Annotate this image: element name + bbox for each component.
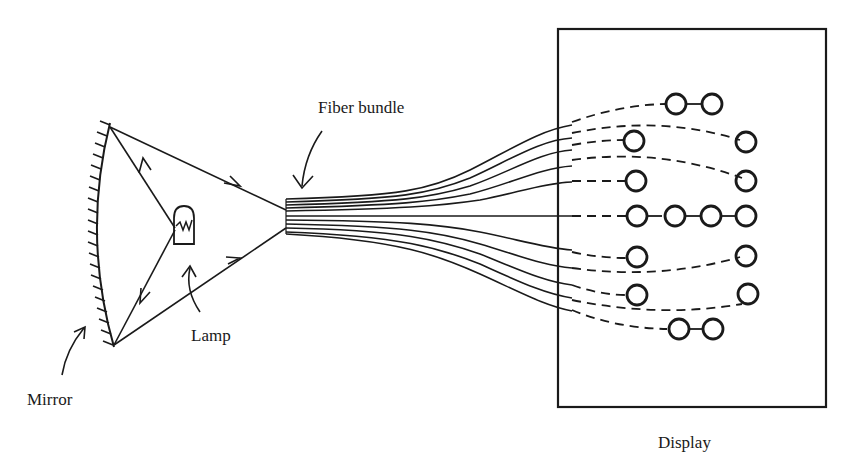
fibers (286, 125, 572, 311)
lamp-filament (176, 220, 192, 230)
mirror-label: Mirror (27, 390, 72, 410)
display-frame (558, 29, 826, 407)
light-rays (110, 127, 286, 345)
display-label: Display (658, 433, 711, 453)
fiber-optic-display-diagram (0, 0, 845, 476)
lamp-label: Lamp (191, 326, 231, 346)
fiber-bundle-label: Fiber bundle (318, 98, 404, 118)
mirror-pointer-arrow (62, 328, 84, 375)
mirror-hatching (88, 121, 113, 345)
